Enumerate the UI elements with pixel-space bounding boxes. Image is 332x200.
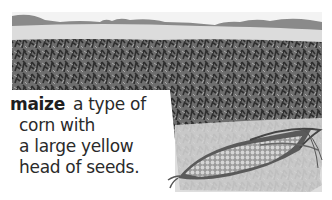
definition-line: a type of <box>73 94 146 114</box>
headword: maize <box>10 94 65 114</box>
definition-line: a large yellow <box>10 136 180 157</box>
definition-line: head of seeds. <box>10 157 180 178</box>
definition-line: corn with <box>10 115 180 136</box>
dictionary-entry: maizea type of corn with a large yellow … <box>10 94 180 178</box>
